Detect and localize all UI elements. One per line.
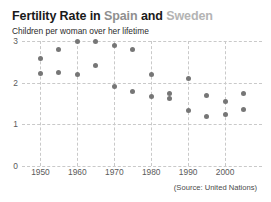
data-point-sweden-2000: [223, 99, 228, 104]
data-point-spain-1990: [186, 108, 191, 113]
x-tick-label-1990: 1990: [179, 167, 198, 177]
data-point-sweden-1950: [38, 71, 43, 76]
title-conjunction: and: [141, 9, 163, 23]
x-tick-label-1950: 1950: [31, 167, 50, 177]
data-point-spain-1975: [130, 47, 135, 52]
data-point-sweden-1960: [75, 72, 80, 77]
data-point-spain-1995: [204, 114, 209, 119]
data-point-sweden-1980: [149, 94, 154, 99]
data-point-sweden-1970: [112, 84, 117, 89]
x-axis-labels: 195019601970198019902000: [22, 167, 262, 179]
title-part-1: Fertility Rate in: [12, 9, 101, 23]
y-axis-labels: 0123: [2, 41, 18, 166]
data-point-sweden-1965: [93, 63, 98, 68]
data-point-sweden-1975: [130, 89, 135, 94]
gridline-x-1980: [151, 41, 152, 166]
plot-area: [22, 41, 262, 166]
data-point-spain-1970: [112, 43, 117, 48]
chart-subtitle: Children per woman over her lifetime: [12, 26, 149, 36]
gridline-x-1960: [77, 41, 78, 166]
x-tick-label-1980: 1980: [142, 167, 161, 177]
y-tick-label-3: 3: [4, 37, 18, 45]
data-point-spain-1965: [93, 39, 98, 44]
data-point-spain-1960: [75, 39, 80, 44]
x-tick-label-1960: 1960: [68, 167, 87, 177]
y-tick-label-0: 0: [4, 162, 18, 170]
fertility-rate-chart: Fertility Rate in Spain and Sweden Child…: [0, 0, 271, 202]
data-point-sweden-1990: [186, 76, 191, 81]
x-tick-label-2000: 2000: [216, 167, 235, 177]
data-point-spain-1950: [38, 56, 43, 61]
data-point-spain-1955: [56, 47, 61, 52]
data-point-spain-2005: [241, 107, 246, 112]
title-series-spain: Spain: [104, 9, 138, 23]
source-attribution: (Source: United Nations): [174, 183, 257, 192]
data-point-spain-1985: [167, 96, 172, 101]
y-tick-label-2: 2: [4, 79, 18, 87]
data-point-spain-1980: [149, 72, 154, 77]
data-point-spain-2000: [223, 112, 228, 117]
title-series-sweden: Sweden: [166, 9, 213, 23]
gridline-x-1990: [188, 41, 189, 166]
page-title: Fertility Rate in Spain and Sweden: [12, 9, 213, 23]
x-tick-label-1970: 1970: [105, 167, 124, 177]
data-point-sweden-1955: [56, 70, 61, 75]
y-tick-label-1: 1: [4, 120, 18, 128]
data-point-sweden-2005: [241, 91, 246, 96]
data-point-sweden-1995: [204, 93, 209, 98]
data-point-sweden-1985: [167, 91, 172, 96]
gridline-x-1970: [114, 41, 115, 166]
